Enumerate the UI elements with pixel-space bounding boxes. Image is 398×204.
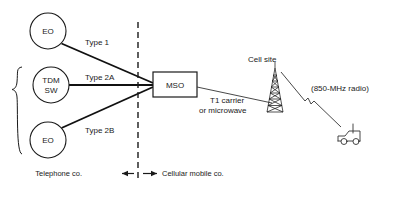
- edge-label-or-microwave: or microwave: [199, 106, 247, 115]
- mso-label: MSO: [166, 81, 184, 90]
- edge-label-type2b: Type 2B: [85, 126, 114, 135]
- boundary-arrows: [122, 171, 157, 176]
- tdm-sw-circle: [33, 67, 69, 103]
- boundary-label-telephone-co: Telephone co.: [35, 169, 82, 178]
- arrow-left-head: [122, 171, 128, 176]
- link-type2b: [62, 87, 154, 128]
- radio-wave-break-icon: [305, 98, 314, 104]
- eo-top-label: EO: [42, 27, 54, 36]
- node-eo-bottom: EO: [30, 122, 66, 158]
- edge-label-radio-band: (850-MHz radio): [311, 84, 369, 93]
- group-brace-icon: [12, 67, 22, 154]
- node-tdm-sw: TDM SW: [33, 67, 69, 103]
- trunk-links: [62, 44, 154, 129]
- annotation-cell-site: Cell site: [248, 55, 277, 64]
- edge-label-type2a: Type 2A: [85, 73, 115, 82]
- node-mso: MSO: [153, 72, 197, 97]
- car-icon: [338, 124, 360, 145]
- arrow-right-head: [151, 171, 157, 176]
- cell-tower-icon: [267, 62, 283, 112]
- radio-link: [281, 72, 341, 127]
- edge-label-t1-carrier: T1 carrier: [210, 96, 245, 105]
- network-diagram: EO TDM SW EO MSO: [0, 0, 398, 204]
- edge-label-type1: Type 1: [85, 38, 110, 47]
- tdm-sw-label-line2: SW: [45, 86, 58, 95]
- boundary-label-cellular-mobile-co: Cellular mobile co.: [162, 169, 224, 178]
- node-eo-top: EO: [30, 13, 66, 49]
- diagram-page: EO TDM SW EO MSO: [0, 0, 398, 204]
- eo-bottom-label: EO: [42, 136, 54, 145]
- tdm-sw-label-line1: TDM: [42, 76, 60, 85]
